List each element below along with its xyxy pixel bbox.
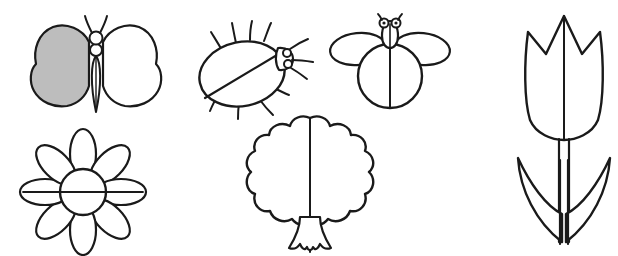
figure-label-butterfly: Butterfly bbox=[0, 0, 1, 1]
bee-pupil-left bbox=[382, 21, 385, 24]
figure-label-tree: Tree bbox=[0, 0, 1, 1]
butterfly-right-wing bbox=[103, 25, 161, 106]
beetle-eye-upper bbox=[283, 49, 291, 57]
figure-label-daisy: Daisy flower bbox=[0, 0, 1, 1]
figure-label-tulip: Tulip bbox=[0, 0, 1, 1]
figure-beetle bbox=[190, 16, 320, 124]
figure-tree bbox=[242, 114, 378, 256]
figure-butterfly bbox=[26, 12, 166, 124]
bee-antennae bbox=[378, 14, 402, 20]
tulip-right-leaf bbox=[566, 158, 610, 242]
beetle-eye-lower bbox=[284, 60, 292, 68]
butterfly-thorax bbox=[90, 44, 102, 56]
figure-bee bbox=[330, 14, 450, 124]
figure-daisy bbox=[18, 130, 148, 255]
butterfly-antennae bbox=[85, 16, 107, 33]
butterfly-left-wing bbox=[31, 25, 89, 106]
tulip-left-leaf bbox=[518, 158, 562, 242]
drawing-canvas: Butterfly Beetle Bee Daisy flower Tree T… bbox=[0, 0, 618, 256]
beetle-body bbox=[193, 34, 290, 114]
figure-label-bee: Bee bbox=[0, 0, 1, 1]
figure-tulip bbox=[512, 10, 616, 250]
figure-label-beetle: Beetle bbox=[0, 0, 1, 1]
bee-pupil-right bbox=[394, 21, 397, 24]
